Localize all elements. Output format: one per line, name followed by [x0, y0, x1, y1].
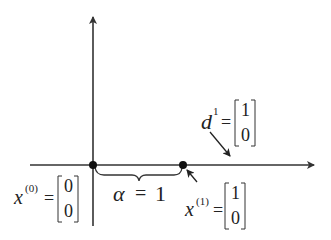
alpha-label: α = 1	[113, 181, 166, 206]
svg-text:=: =	[44, 188, 54, 208]
svg-text:=: =	[213, 200, 223, 220]
svg-text:0: 0	[231, 208, 240, 228]
svg-text:α: α	[113, 181, 125, 206]
x0-matrix-left-bracket	[58, 176, 62, 222]
svg-text:0: 0	[64, 176, 73, 196]
x1-pointer-arrow	[187, 170, 197, 182]
svg-text:x: x	[184, 198, 194, 220]
svg-text:x: x	[13, 186, 23, 208]
svg-text:(1): (1)	[196, 195, 209, 208]
x1-label: x (1) = 1 0	[184, 183, 245, 229]
d1-pointer-arrow	[210, 132, 230, 156]
svg-text:=: =	[221, 112, 231, 132]
x1-matrix-left-bracket	[225, 183, 229, 229]
svg-text:(0): (0)	[25, 182, 38, 195]
alpha-brace	[95, 167, 182, 181]
svg-text:1: 1	[155, 181, 166, 206]
point-x0	[89, 161, 97, 169]
point-x1	[179, 161, 187, 169]
svg-text:d: d	[201, 109, 213, 134]
svg-text:1: 1	[241, 100, 250, 120]
svg-text:1: 1	[213, 105, 219, 117]
d1-matrix-right-bracket	[251, 100, 255, 146]
diagram-canvas: x (0) = 0 0 α = 1 x (1) = 1 0 d 1 = 1 0	[0, 0, 331, 240]
svg-text:1: 1	[231, 183, 240, 203]
svg-text:=: =	[135, 182, 146, 204]
x1-matrix-right-bracket	[241, 183, 245, 229]
x0-label: x (0) = 0 0	[13, 176, 78, 222]
svg-text:0: 0	[241, 125, 250, 145]
d1-label: d 1 = 1 0	[201, 100, 255, 146]
svg-text:0: 0	[64, 201, 73, 221]
d1-matrix-left-bracket	[235, 100, 239, 146]
x0-matrix-right-bracket	[74, 176, 78, 222]
